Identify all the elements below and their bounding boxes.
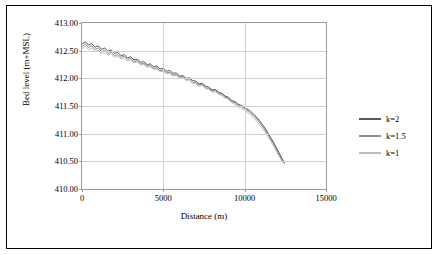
y-tick-label: 410.00 (55, 184, 78, 194)
y-tick-mark (79, 78, 82, 79)
legend-item: k=1.5 (359, 127, 429, 144)
y-tick-mark (79, 134, 82, 135)
gridline-horizontal (82, 134, 326, 135)
gridline-vertical (163, 23, 164, 189)
y-tick-label: 413.00 (55, 18, 78, 28)
legend-swatch (359, 152, 381, 154)
x-tick-mark (326, 189, 327, 192)
y-tick-label: 411.00 (55, 129, 78, 139)
x-tick-label: 5000 (155, 193, 172, 203)
y-tick-label: 410.50 (55, 156, 78, 166)
gridline-horizontal (82, 78, 326, 79)
y-axis-label: Bed level (m+MSL) (21, 33, 31, 106)
legend: k=2k=1.5k=1 (359, 110, 429, 161)
series-line (82, 42, 285, 163)
legend-label: k=1.5 (386, 131, 406, 141)
y-tick-label: 412.50 (55, 46, 78, 56)
x-tick-mark (82, 189, 83, 192)
y-tick-label: 411.50 (55, 101, 78, 111)
x-tick-label: 10000 (234, 193, 255, 203)
legend-item: k=1 (359, 144, 429, 161)
legend-swatch (359, 135, 381, 137)
chart-figure-border: Bed level (m+MSL) 410.00410.50411.00411.… (6, 5, 432, 249)
legend-item: k=2 (359, 110, 429, 127)
x-tick-mark (163, 189, 164, 192)
legend-label: k=1 (386, 148, 399, 158)
gridline-horizontal (82, 51, 326, 52)
x-tick-label: 15000 (315, 193, 336, 203)
x-tick-label: 0 (80, 193, 84, 203)
y-tick-mark (79, 161, 82, 162)
legend-swatch (359, 118, 381, 120)
y-tick-mark (79, 23, 82, 24)
y-tick-mark (79, 51, 82, 52)
series-line (82, 44, 285, 164)
gridline-horizontal (82, 106, 326, 107)
y-tick-mark (79, 106, 82, 107)
plot-area: 410.00410.50411.00411.50412.00412.50413.… (81, 22, 327, 190)
gridline-vertical (245, 23, 246, 189)
gridline-horizontal (82, 161, 326, 162)
legend-label: k=2 (386, 114, 399, 124)
y-tick-label: 412.00 (55, 73, 78, 83)
x-axis-label: Distance (m) (81, 211, 327, 221)
x-tick-mark (245, 189, 246, 192)
